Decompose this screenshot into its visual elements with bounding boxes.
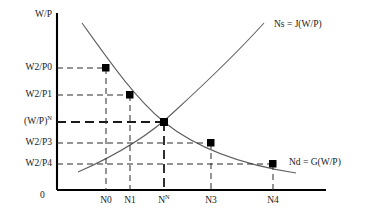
y-tick-label-wp-natural-superscript: N [47,114,52,121]
y-axis-title: W/P [10,9,52,20]
x-tick-label-n-natural: NN [144,195,184,206]
y-tick-label-wp-natural: (W/P)N [0,116,52,127]
data-marker-n3 [207,139,215,147]
data-marker-n0 [102,64,110,72]
demand-curve-label: Nd = G(W/P) [289,157,341,168]
labor-market-diagram: W/P 0 W2/P0 W2/P1 (W/P)N W2/P3 W2/P4 N0 … [0,0,366,224]
x-tick-label-n3: N3 [191,195,231,206]
data-marker-equilibrium [160,118,168,126]
origin-label: 0 [40,190,45,201]
y-tick-label-w2p3: W2/P3 [2,137,52,148]
data-marker-n4 [269,160,277,168]
x-tick-label-n4: N4 [253,195,293,206]
y-tick-label-w2p4: W2/P4 [2,158,52,169]
y-tick-label-w2p1: W2/P1 [2,89,52,100]
x-tick-label-n-natural-superscript: N [165,193,170,200]
y-tick-label-w2p0: W2/P0 [2,62,52,73]
y-tick-label-wp-natural-base: (W/P) [24,116,47,126]
supply-curve-label: Ns = J(W/P) [274,19,322,30]
plot-area [0,0,366,224]
data-marker-n1 [126,91,134,99]
